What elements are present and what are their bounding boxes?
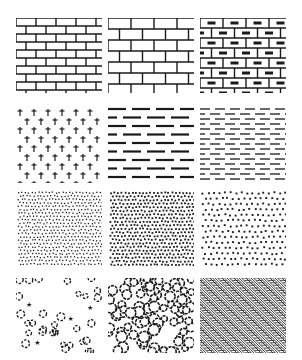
svg-text:★: ★ (26, 301, 32, 309)
pattern-swatch-brick-hollow-block (200, 18, 286, 93)
svg-text:★: ★ (87, 304, 93, 312)
pattern-swatch-brick-running-large (108, 18, 194, 93)
pattern-swatch-dashes-heavy (108, 105, 194, 183)
dashes-heavy-pattern-graphic (108, 105, 194, 183)
stipple-sparse-pattern-graphic (200, 190, 286, 266)
pattern-swatch-gravel-dense (108, 278, 194, 353)
gravel-dense-pattern-graphic (108, 278, 194, 353)
crosses-pattern-graphic (16, 105, 102, 183)
pattern-swatch-herringbone (200, 278, 286, 353)
svg-text:★: ★ (67, 315, 73, 323)
stipple-fine-pattern-graphic (16, 190, 102, 266)
dashes-light-pattern-graphic (200, 105, 286, 183)
pattern-swatch-stipple-fine (16, 190, 102, 266)
brick-hollow-block-pattern-graphic (200, 18, 286, 93)
stipple-dense-pattern-graphic (108, 190, 194, 266)
svg-text:★: ★ (34, 339, 40, 347)
pattern-swatch-pebbles-sparse: ★★★★ (16, 278, 102, 353)
pattern-swatch-crosses (16, 105, 102, 183)
pattern-swatch-stipple-sparse (200, 190, 286, 266)
brick-running-large-pattern-graphic (108, 18, 194, 93)
pattern-swatch-brick-running-small (16, 18, 102, 93)
pattern-swatch-dashes-light (200, 105, 286, 183)
brick-running-small-pattern-graphic (16, 18, 102, 93)
herringbone-pattern-graphic (200, 278, 286, 353)
pattern-swatch-stipple-dense (108, 190, 194, 266)
pebbles-sparse-pattern-graphic: ★★★★ (16, 278, 102, 353)
